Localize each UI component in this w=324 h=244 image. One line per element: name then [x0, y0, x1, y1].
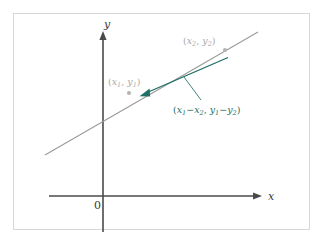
y-axis-label: y — [103, 18, 111, 31]
vector-close-paren: ) — [237, 104, 241, 115]
x-axis-label: x — [268, 190, 275, 203]
point-2-marker — [223, 48, 227, 52]
vector-minus-1: − — [186, 104, 194, 115]
figure-frame — [14, 14, 310, 230]
origin-label: 0 — [94, 199, 101, 212]
vector-minus-2: − — [219, 104, 227, 115]
point-2-close-paren: ) — [212, 35, 216, 46]
coordinate-geometry-figure: y x 0 (x1, y1) (x2, y2) (x1−x2, y1−y2) — [0, 0, 324, 244]
figure-canvas: y x 0 (x1, y1) (x2, y2) (x1−x2, y1−y2) — [0, 0, 324, 244]
point-1-marker — [127, 91, 131, 95]
point-1-close-paren: ) — [137, 76, 141, 87]
